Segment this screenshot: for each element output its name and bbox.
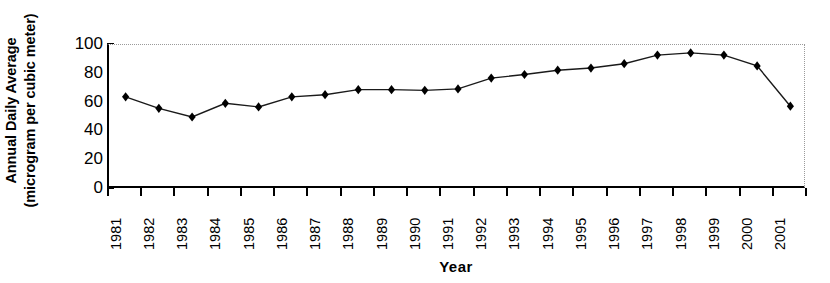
x-tick-mark <box>173 188 175 196</box>
x-tick-label: 1985 <box>249 198 265 250</box>
data-point-marker <box>189 112 196 121</box>
x-tick-label: 1998 <box>681 198 697 250</box>
x-tick-label: 1982 <box>149 198 165 250</box>
x-tick-label-text: 1984 <box>207 218 223 250</box>
data-point-marker <box>454 84 461 93</box>
data-point-marker <box>654 50 661 59</box>
x-tick-label-text: 1989 <box>374 218 390 250</box>
y-tick-label: 0 <box>59 179 103 196</box>
x-tick-mark <box>572 188 574 196</box>
data-point-marker <box>255 102 262 111</box>
data-point-marker <box>720 50 727 59</box>
plot-area <box>107 44 805 188</box>
x-tick-label: 1987 <box>315 198 331 250</box>
x-tick-mark <box>539 188 541 196</box>
y-axis-title-line-1: Annual Daily Average <box>3 8 19 213</box>
x-tick-mark <box>140 188 142 196</box>
x-tick-mark <box>805 188 807 196</box>
data-point-marker <box>421 86 428 95</box>
x-tick-mark <box>240 188 242 196</box>
x-tick-label: 1988 <box>348 198 364 250</box>
x-tick-label-text: 1993 <box>506 218 522 250</box>
x-tick-label: 1992 <box>481 198 497 250</box>
x-tick-mark <box>772 188 774 196</box>
x-tick-label: 2000 <box>747 198 763 250</box>
x-tick-label: 1986 <box>282 198 298 250</box>
x-tick-label-text: 1995 <box>573 218 589 250</box>
x-tick-mark <box>672 188 674 196</box>
data-point-marker <box>621 59 628 68</box>
x-tick-label: 1996 <box>614 198 630 250</box>
x-tick-mark <box>406 188 408 196</box>
x-tick-label-text: 1991 <box>440 218 456 250</box>
data-point-marker <box>122 92 129 101</box>
x-tick-label: 1981 <box>116 198 132 250</box>
x-tick-label-text: 1983 <box>174 218 190 250</box>
x-tick-mark <box>373 188 375 196</box>
x-tick-mark <box>473 188 475 196</box>
data-point-marker <box>321 90 328 99</box>
y-axis-title: Annual Daily Average (microgram per cubi… <box>0 0 58 215</box>
x-tick-label: 1995 <box>581 198 597 250</box>
x-tick-label: 1991 <box>448 198 464 250</box>
x-tick-mark <box>306 188 308 196</box>
x-tick-label-text: 2001 <box>772 218 788 250</box>
data-point-marker <box>288 92 295 101</box>
y-axis-tick-labels: 020406080100 <box>55 0 103 283</box>
x-tick-mark <box>705 188 707 196</box>
x-tick-label-text: 1994 <box>540 218 556 250</box>
y-tick-label: 20 <box>59 150 103 167</box>
data-point-marker <box>388 85 395 94</box>
data-point-marker <box>155 104 162 113</box>
x-tick-label-text: 1992 <box>473 218 489 250</box>
x-tick-label: 1989 <box>382 198 398 250</box>
y-tick-label: 60 <box>59 93 103 110</box>
x-tick-label-text: 1982 <box>141 218 157 250</box>
x-tick-label: 1994 <box>548 198 564 250</box>
x-tick-mark <box>439 188 441 196</box>
x-tick-label-text: 1999 <box>706 218 722 250</box>
x-tick-label-text: 1997 <box>639 218 655 250</box>
x-tick-label-text: 1987 <box>307 218 323 250</box>
x-tick-label: 1993 <box>514 198 530 250</box>
x-tick-mark <box>739 188 741 196</box>
x-tick-label-text: 1986 <box>274 218 290 250</box>
x-tick-mark <box>606 188 608 196</box>
x-tick-label: 1999 <box>714 198 730 250</box>
x-tick-mark <box>107 188 109 196</box>
x-tick-mark <box>639 188 641 196</box>
x-tick-label-text: 2000 <box>739 218 755 250</box>
x-tick-mark <box>340 188 342 196</box>
x-tick-label: 1997 <box>647 198 663 250</box>
x-tick-label: 1990 <box>415 198 431 250</box>
chart-figure: Annual Daily Average (microgram per cubi… <box>0 0 830 283</box>
data-point-marker <box>687 48 694 57</box>
x-tick-label-text: 1981 <box>108 218 124 250</box>
x-tick-label-text: 1990 <box>407 218 423 250</box>
x-axis-title: Year <box>107 258 805 275</box>
x-tick-label: 1984 <box>215 198 231 250</box>
x-tick-mark <box>506 188 508 196</box>
x-tick-label: 1983 <box>182 198 198 250</box>
data-point-marker <box>355 85 362 94</box>
data-point-marker <box>521 70 528 79</box>
x-tick-mark <box>273 188 275 196</box>
y-tick-label: 40 <box>59 121 103 138</box>
x-tick-label-text: 1996 <box>606 218 622 250</box>
data-series-line <box>109 45 807 189</box>
x-tick-label-text: 1998 <box>673 218 689 250</box>
x-tick-mark <box>207 188 209 196</box>
data-point-marker <box>587 63 594 72</box>
x-tick-label: 2001 <box>780 198 796 250</box>
y-axis-title-line-2: (microgram per cubic meter) <box>22 8 38 213</box>
data-point-marker <box>222 99 229 108</box>
y-tick-label: 100 <box>59 35 103 52</box>
x-tick-label-text: 1985 <box>241 218 257 250</box>
y-tick-label: 80 <box>59 64 103 81</box>
data-point-marker <box>554 66 561 75</box>
x-tick-label-text: 1988 <box>340 218 356 250</box>
data-point-marker <box>488 74 495 83</box>
